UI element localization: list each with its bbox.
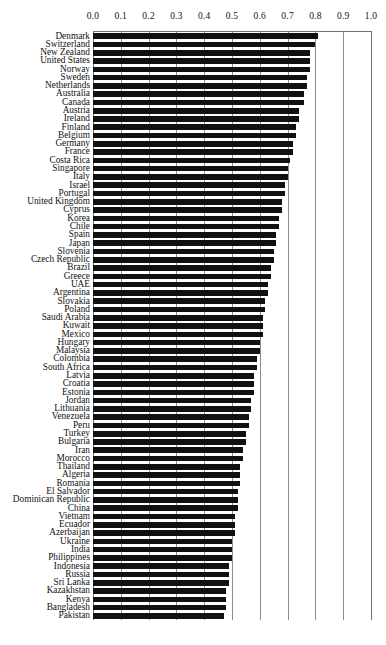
bar-row: Croatia: [0, 380, 386, 388]
bar: [93, 216, 279, 222]
bar-row: Saudi Arabia: [0, 314, 386, 322]
bar: [93, 390, 254, 396]
bar: [93, 249, 274, 255]
bar-row: Greece: [0, 272, 386, 280]
bar: [93, 365, 257, 371]
bar: [93, 108, 299, 114]
bar-row: Slovakia: [0, 297, 386, 305]
bar-row: South Africa: [0, 363, 386, 371]
bar: [93, 373, 254, 379]
bar-row: Kazakhstan: [0, 587, 386, 595]
bar-row: Australia: [0, 90, 386, 98]
bar: [93, 605, 226, 611]
bar-rows: DenmarkSwitzerlandNew ZealandUnited Stat…: [0, 32, 386, 620]
bar-row: Norway: [0, 65, 386, 73]
bar-row: Ireland: [0, 115, 386, 123]
bar: [93, 563, 229, 569]
bar: [93, 232, 276, 238]
x-tick-label: 0.7: [281, 11, 293, 21]
bar: [93, 100, 304, 106]
bar: [93, 282, 268, 288]
bar: [93, 597, 226, 603]
bar: [93, 315, 263, 321]
bar: [93, 124, 296, 130]
x-tick-label: 0.6: [254, 11, 266, 21]
bar-row: Latvia: [0, 372, 386, 380]
bar: [93, 481, 240, 487]
bar: [93, 224, 279, 230]
bar: [93, 414, 249, 420]
x-tick-label: 1.0: [365, 11, 377, 21]
bar: [93, 464, 240, 470]
bar: [93, 356, 257, 362]
bar: [93, 580, 229, 586]
bar-row: Azerbaijan: [0, 529, 386, 537]
bar-row: Estonia: [0, 388, 386, 396]
bar-row: Korea: [0, 214, 386, 222]
bar: [93, 588, 226, 594]
bar: [93, 340, 260, 346]
bar-row: Ukraine: [0, 537, 386, 545]
bar: [93, 75, 307, 81]
bar: [93, 307, 265, 313]
bar: [93, 456, 243, 462]
bar-row: Singapore: [0, 165, 386, 173]
category-label: Pakistan: [58, 611, 90, 620]
bar: [93, 33, 318, 39]
horizontal-bar-chart: 0.00.10.20.30.40.50.60.70.80.91.0 Denmar…: [0, 0, 386, 645]
bar: [93, 83, 307, 89]
bar: [93, 613, 224, 619]
bar: [93, 149, 293, 155]
bar: [93, 174, 288, 180]
bar: [93, 158, 290, 164]
bar: [93, 530, 235, 536]
bar: [93, 572, 229, 578]
bar-row: United Kingdom: [0, 198, 386, 206]
x-tick-label: 0.1: [115, 11, 127, 21]
bar: [93, 191, 285, 197]
bar: [93, 116, 299, 122]
bar: [93, 547, 232, 553]
bar: [93, 522, 235, 528]
x-tick-label: 0.4: [198, 11, 210, 21]
bar-row: Kuwait: [0, 322, 386, 330]
bar: [93, 58, 310, 64]
x-tick-label: 0.3: [170, 11, 182, 21]
bar: [93, 50, 310, 56]
bar: [93, 207, 282, 213]
bar: [93, 91, 304, 97]
bar: [93, 240, 276, 246]
bar-row: Chile: [0, 222, 386, 230]
bar-row: Venezuela: [0, 413, 386, 421]
bar: [93, 42, 315, 48]
bar-row: Germany: [0, 140, 386, 148]
bar: [93, 298, 265, 304]
bar: [93, 199, 282, 205]
bar-row: Vietnam: [0, 512, 386, 520]
bar: [93, 332, 263, 338]
x-tick-label: 0.8: [309, 11, 321, 21]
bar: [93, 423, 249, 429]
bar: [93, 489, 238, 495]
bar-row: Austria: [0, 107, 386, 115]
bar-row: Indonesia: [0, 562, 386, 570]
bar-row: Pakistan: [0, 612, 386, 620]
bar: [93, 67, 310, 73]
bar: [93, 323, 263, 329]
x-axis-tick-labels: 0.00.10.20.30.40.50.60.70.80.91.0: [0, 11, 386, 25]
bar-row: Spain: [0, 231, 386, 239]
bar: [93, 166, 288, 172]
bar-row: United States: [0, 57, 386, 65]
bar: [93, 257, 274, 263]
bar: [93, 447, 243, 453]
bar: [93, 497, 238, 503]
bar: [93, 133, 296, 139]
bar: [93, 381, 254, 387]
bar: [93, 141, 293, 147]
x-tick-label: 0.5: [226, 11, 238, 21]
bar: [93, 398, 251, 404]
bar: [93, 514, 235, 520]
bar: [93, 265, 271, 271]
bar: [93, 472, 240, 478]
bar: [93, 182, 285, 188]
